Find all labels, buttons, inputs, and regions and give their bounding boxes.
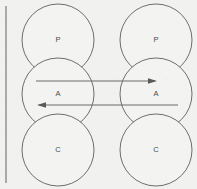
node-left-a-label: A — [55, 89, 60, 98]
node-right-p-label: P — [153, 35, 158, 44]
diagram-svg: P A C P A C — [0, 0, 197, 189]
right-column: P A C — [120, 4, 192, 186]
node-left-p-label: P — [55, 35, 60, 44]
node-left-c-label: C — [55, 145, 61, 154]
diagram-canvas: P A C P A C — [0, 0, 197, 189]
node-right-c-label: C — [153, 145, 159, 154]
left-column: P A C — [22, 4, 94, 186]
node-right-a-label: A — [153, 89, 158, 98]
